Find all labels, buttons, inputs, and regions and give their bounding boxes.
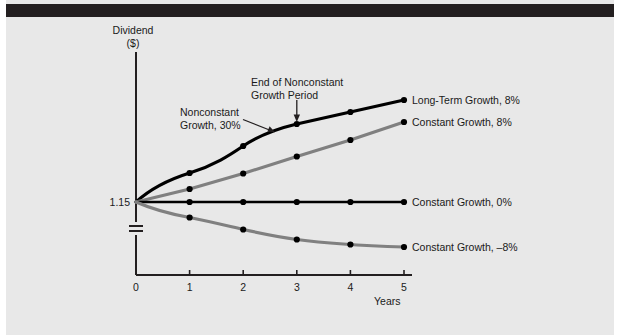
y-axis-break-icon (129, 226, 143, 231)
end-of-nonconstant-growth-annotation-line2: Growth Period (251, 89, 318, 101)
nonconstant-growth-annotation: NonconstantGrowth, 30% (180, 106, 241, 131)
series-label-constant-growth-0: Constant Growth, 0% (412, 196, 512, 208)
chart-figure: Dividend($) 1.15 0 1 2 3 4 5 Years Nonco… (0, 0, 620, 335)
series-line-constant-growth-8 (136, 122, 404, 202)
nonconstant-growth-annotation-line2: Growth, 30% (180, 119, 241, 131)
end-of-nonconstant-growth-arrow-icon (294, 100, 300, 122)
series-label-long-term-growth: Long-Term Growth, 8% (412, 94, 520, 106)
chart-plot-area (0, 0, 620, 335)
series-label-constant-growth-8: Constant Growth, 8% (412, 116, 512, 128)
y-axis-title: Dividend($) (104, 24, 162, 49)
y-axis-title-line2: ($) (127, 37, 140, 49)
series-label-constant-growth-neg8: Constant Growth, –8% (412, 241, 518, 253)
x-tick-label-1: 1 (178, 281, 202, 293)
series-line-constant-growth-neg8 (136, 202, 404, 247)
y-axis-title-line1: Dividend (113, 24, 154, 36)
x-tick-label-5: 5 (392, 281, 416, 293)
x-tick-label-2: 2 (231, 281, 255, 293)
end-of-nonconstant-growth-annotation-line1: End of Nonconstant (251, 76, 343, 88)
x-axis-title: Years (374, 295, 400, 308)
nonconstant-growth-annotation-line1: Nonconstant (180, 106, 239, 118)
x-tick-label-3: 3 (285, 281, 309, 293)
nonconstant-growth-arrow-icon (243, 120, 275, 133)
series-line-long-term-growth (136, 100, 404, 202)
x-tick-label-4: 4 (338, 281, 362, 293)
x-tick-label-0: 0 (124, 281, 148, 293)
y-axis-tick-label: 1.15 (92, 196, 130, 209)
end-of-nonconstant-growth-annotation: End of NonconstantGrowth Period (251, 76, 343, 101)
